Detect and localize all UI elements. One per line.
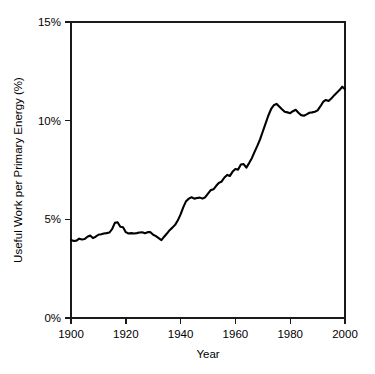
x-tick-label: 2000 (332, 328, 358, 340)
x-axis-tick-labels: 190019201940196019802000 (58, 328, 358, 340)
y-tick-label: 0% (44, 312, 61, 324)
axis-frame (71, 22, 345, 318)
x-axis-title: Year (196, 348, 219, 360)
x-tick-label: 1980 (277, 328, 303, 340)
y-axis-tick-marks (65, 22, 71, 318)
series-line-useful-work (71, 87, 345, 241)
line-chart: 0%5%10%15% 190019201940196019802000 Year… (0, 0, 375, 374)
y-tick-label: 10% (38, 115, 61, 127)
x-axis-tick-marks (71, 318, 345, 324)
x-tick-label: 1960 (223, 328, 249, 340)
y-tick-label: 5% (44, 213, 61, 225)
x-tick-label: 1920 (113, 328, 139, 340)
y-axis-tick-labels: 0%5%10%15% (38, 16, 61, 324)
y-tick-label: 15% (38, 16, 61, 28)
x-tick-label: 1900 (58, 328, 84, 340)
chart-figure: 0%5%10%15% 190019201940196019802000 Year… (0, 0, 375, 374)
x-tick-label: 1940 (168, 328, 194, 340)
plot-frame (71, 22, 345, 318)
y-axis-title: Useful Work per Primary Energy (%) (12, 77, 24, 263)
data-series-group (71, 87, 345, 241)
